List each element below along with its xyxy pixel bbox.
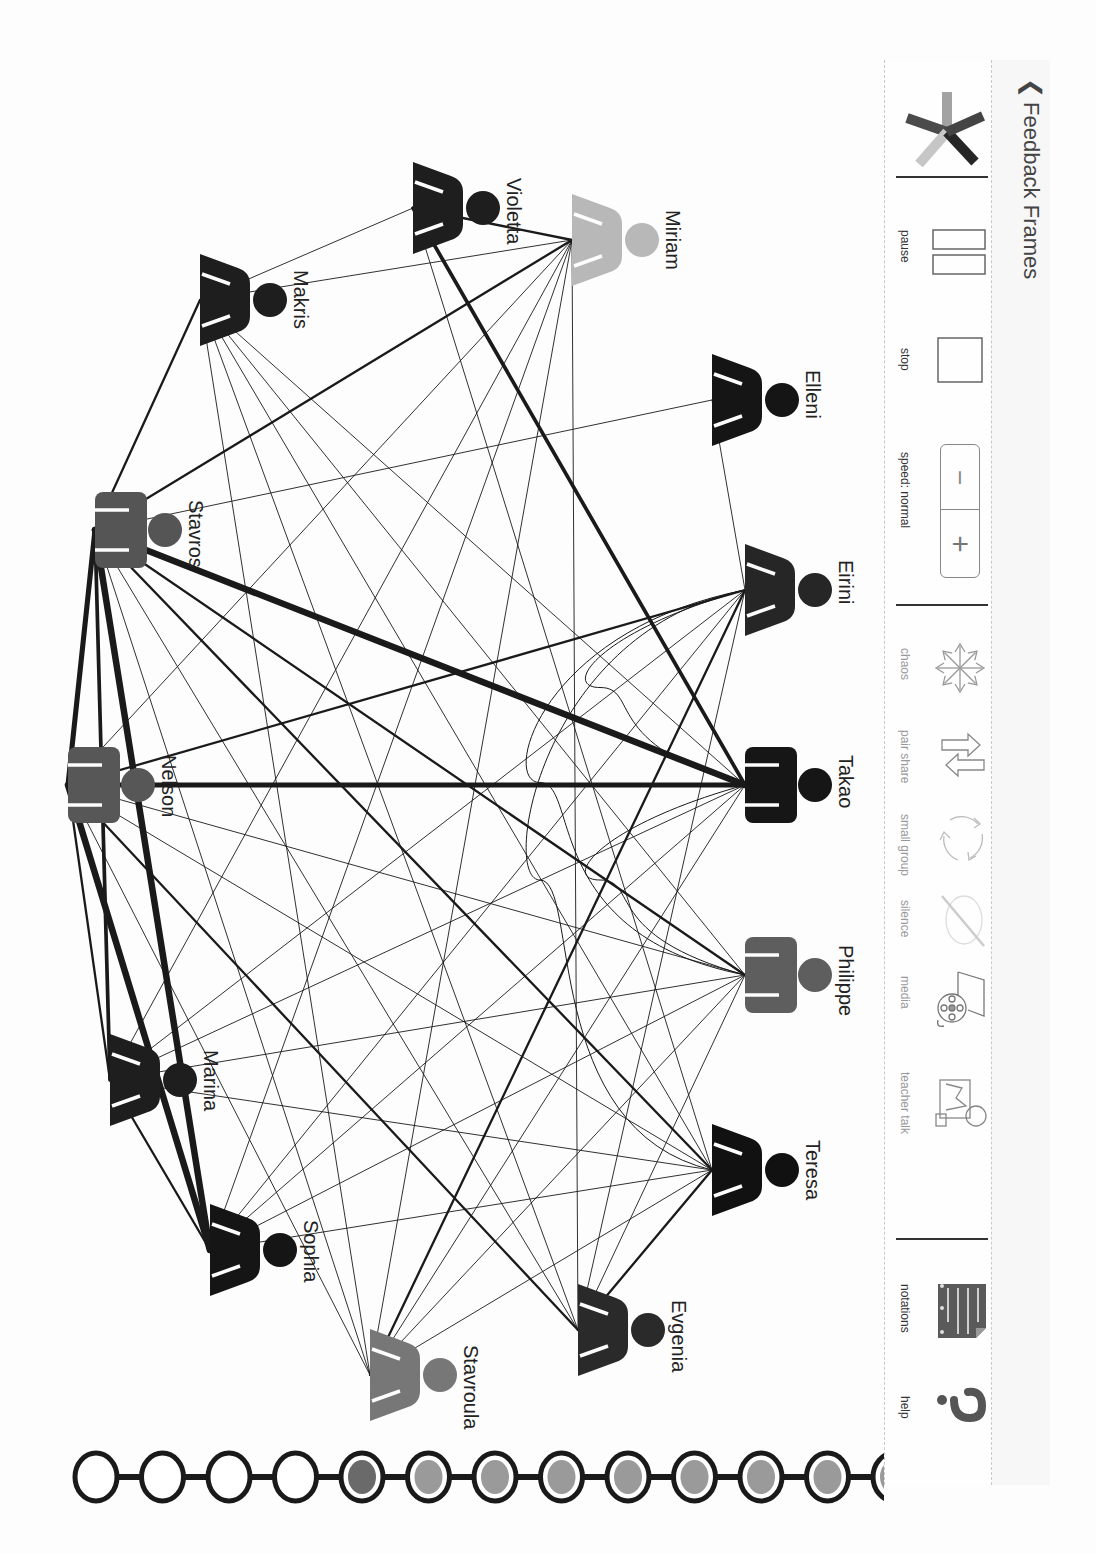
student-name-label: Miriam [662,210,684,270]
student-node-makris[interactable]: Makris [200,254,312,346]
pinwheel-logo-icon [895,92,990,172]
person-head-icon [798,573,832,607]
speed-decrease-button[interactable]: − [941,445,979,510]
help-label: help [898,1396,912,1419]
student-name-label: Sophia [300,1220,322,1283]
student-name-label: Violetta [503,178,525,245]
student-name-label: Nelson [158,755,180,817]
timeline-frame-1[interactable] [75,1453,117,1501]
chaos-button[interactable] [932,640,988,696]
person-body-icon [745,544,795,636]
current-frame-fill [348,1460,376,1494]
pause-label: pause [898,230,912,263]
person-head-icon [625,223,659,257]
silence-label: silence [898,900,912,937]
frame-fill [814,1460,842,1494]
silence-icon [936,890,990,950]
student-node-violetta[interactable]: Violetta [413,162,525,254]
person-head-icon [121,768,155,802]
student-node-sophia[interactable]: Sophia [210,1204,322,1296]
toolbar-divider [896,1238,988,1240]
edge-violetta-teresa [413,208,712,1170]
student-node-stavros[interactable]: Stavros [95,492,207,568]
node-layer: ViolettaMiriamMakrisElleniStavrosEiriniT… [68,162,857,1430]
student-name-label: Eirini [835,560,857,604]
pair-share-label: pair share [898,730,912,783]
curved-edge-takao-philippe [585,785,745,975]
media-button[interactable] [932,966,990,1032]
student-node-elleni[interactable]: Elleni [712,354,824,446]
edge-violetta-takao [413,208,745,785]
chaos-arrows-icon [932,640,988,696]
swap-arrows-icon [938,726,988,782]
teacher-board-icon [932,1066,990,1136]
person-body-icon [712,354,762,446]
speed-increase-button[interactable]: + [941,511,979,577]
edge-miriam-sophia [210,240,572,1250]
student-name-label: Evgenia [668,1300,690,1373]
student-node-evgenia[interactable]: Evgenia [578,1284,690,1376]
edge-eirini-evgenia [578,590,745,1330]
person-body-icon [745,937,797,1013]
person-body-icon [95,492,147,568]
person-head-icon [163,1063,197,1097]
student-name-label: Elleni [802,370,824,419]
header-title-group[interactable]: ❮Feedback Frames [1018,78,1046,279]
notations-label: notations [898,1284,912,1333]
edge-stavros-philippe [95,530,745,975]
student-name-label: Teresa [802,1140,824,1201]
timeline-frame-3[interactable] [208,1453,250,1501]
notations-button[interactable] [936,1282,988,1340]
student-name-label: Makris [290,270,312,329]
minus-icon: − [945,469,976,484]
person-body-icon [68,747,120,823]
person-body-icon [370,1329,420,1421]
student-name-label: Stavroula [460,1345,482,1430]
edge-stavros-takao [95,530,745,785]
student-node-nelson[interactable]: Nelson [68,747,180,823]
edge-stavros-sophia [95,530,210,1250]
timeline-frame-2[interactable] [142,1453,184,1501]
chevron-left-icon[interactable]: ❮ [1018,78,1046,98]
silence-button[interactable] [936,890,990,950]
timeline-frame-4[interactable] [275,1453,317,1501]
stop-label: stop [898,348,912,371]
person-head-icon [765,383,799,417]
edge-makris-takao [200,300,745,785]
frame-fill [614,1460,642,1494]
student-node-miriam[interactable]: Miriam [572,194,684,286]
edge-miriam-stavros [95,240,572,530]
student-node-stavroula[interactable]: Stavroula [370,1329,482,1430]
speed-label: speed: normal [898,452,912,528]
edge-eirini-stavroula [370,590,745,1375]
teacher-talk-button[interactable] [932,1066,990,1136]
small-group-button[interactable] [936,810,990,866]
student-name-label: Philippe [835,945,857,1016]
person-head-icon [253,283,287,317]
small-group-label: small group [898,814,912,876]
stop-icon [936,336,984,384]
plus-icon: + [943,535,977,553]
student-node-philippe[interactable]: Philippe [745,937,857,1016]
chaos-label: chaos [898,648,912,680]
film-reel-icon [932,966,990,1032]
person-body-icon [572,194,622,286]
pause-button[interactable] [930,222,988,282]
teacher-talk-label: teacher talk [898,1072,912,1134]
edge-stavros-evgenia [95,530,578,1330]
person-head-icon [798,768,832,802]
person-head-icon [798,958,832,992]
person-head-icon [765,1153,799,1187]
help-button[interactable] [936,1384,988,1440]
pair-share-button[interactable] [938,726,988,782]
person-head-icon [631,1313,665,1347]
person-body-icon [210,1204,260,1296]
student-node-takao[interactable]: Takao [745,747,857,823]
frame-fill [681,1460,709,1494]
stop-button[interactable] [936,336,984,384]
edge-miriam-stavroula [370,240,572,1375]
student-node-eirini[interactable]: Eirini [745,544,857,636]
student-node-teresa[interactable]: Teresa [712,1124,824,1216]
frame-fill [548,1460,576,1494]
frame-fill [481,1460,509,1494]
